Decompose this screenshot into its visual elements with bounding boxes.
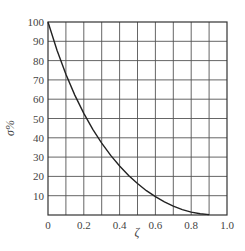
x-tick-label: 0.6 (149, 219, 163, 231)
overshoot-chart: 102030405060708090100 00.20.40.60.81.0 σ… (0, 0, 245, 251)
x-tick-label: 0 (45, 219, 51, 231)
y-tick-label: 40 (33, 132, 45, 144)
y-tick-label: 70 (33, 74, 45, 86)
x-tick-label: 0.4 (113, 219, 127, 231)
x-tick-labels: 00.20.40.60.81.0 (45, 219, 234, 231)
x-axis-label: ζ (135, 225, 141, 239)
y-tick-label: 30 (33, 151, 45, 163)
y-tick-label: 60 (33, 93, 45, 105)
x-tick-label: 0.8 (184, 219, 198, 231)
grid-lines (48, 22, 227, 215)
y-tick-label: 10 (33, 190, 45, 202)
y-tick-label: 80 (33, 55, 45, 67)
x-tick-label: 0.2 (77, 219, 91, 231)
y-axis-label: σ% (3, 120, 17, 136)
x-tick-label: 1.0 (220, 219, 234, 231)
y-tick-label: 100 (28, 16, 45, 28)
y-tick-label: 20 (33, 170, 45, 182)
y-tick-label: 50 (33, 113, 45, 125)
y-tick-label: 90 (33, 35, 45, 47)
y-tick-labels: 102030405060708090100 (28, 16, 45, 202)
